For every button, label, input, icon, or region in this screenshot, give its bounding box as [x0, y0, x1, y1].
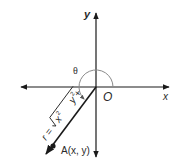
polar-coordinate-diagram: y x O θ A(x, y) r = x 2 + y 2	[0, 0, 179, 166]
y-axis-label: y	[83, 8, 91, 20]
svg-text:+: +	[58, 74, 94, 116]
radius-formula: r = x 2 + y 2	[37, 73, 93, 142]
origin-label: O	[103, 90, 112, 104]
svg-text:r =: r =	[39, 126, 55, 142]
point-a-label: A(x, y)	[61, 145, 90, 156]
x-axis-label: x	[162, 91, 169, 102]
theta-label: θ	[73, 65, 78, 76]
point-a-dot	[50, 143, 55, 148]
radius-prefix: r =	[39, 126, 55, 142]
